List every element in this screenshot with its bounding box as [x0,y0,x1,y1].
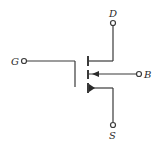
drain-terminal [111,21,116,26]
source-terminal [111,123,116,128]
body-terminal [137,72,142,77]
source-arrow-icon [89,84,95,92]
gate-label: G [11,56,19,67]
source-label: S [109,130,116,141]
gate-terminal [22,59,27,64]
drain-label: D [108,8,117,19]
body-arrow-icon [92,71,99,77]
mosfet-symbol: G D B S [0,0,158,149]
body-label: B [143,69,151,80]
